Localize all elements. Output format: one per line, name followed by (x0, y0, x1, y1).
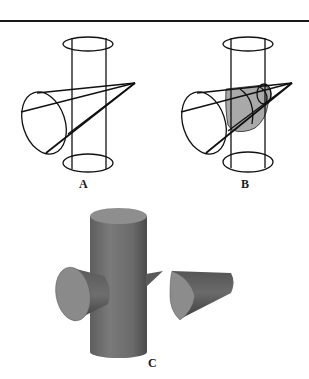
cone-b-base-ellipse (174, 86, 234, 160)
cone-a-base-ellipse (14, 86, 74, 160)
solid-cylinder-top-face (90, 208, 147, 224)
panel-a-wireframe (14, 37, 135, 172)
panel-b-wireframe (174, 37, 292, 172)
cone-cylinder-intersection-figure: A B (0, 0, 309, 379)
intersection-shaded-region (226, 85, 271, 132)
panel-a-label: A (79, 177, 88, 191)
cone-tip-spike (146, 271, 163, 287)
cone-a-top-generator (37, 83, 135, 93)
panel-b-label: B (241, 177, 249, 191)
panel-c-solid (52, 208, 234, 358)
figure-graphics: A B (0, 0, 309, 379)
cone-a-inner-generator (68, 83, 135, 134)
panel-c-label: C (148, 356, 157, 370)
